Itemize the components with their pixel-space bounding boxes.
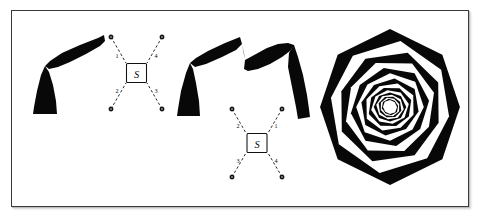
black-double-arm-arc-shape <box>177 37 310 119</box>
spoke-line-4 <box>147 37 162 63</box>
spoke-line-1 <box>111 37 126 63</box>
s-node-label: S <box>134 69 140 80</box>
endpoint-node-hole <box>161 36 163 38</box>
endpoint-node-hole <box>161 108 163 110</box>
spoke-label-3: 3 <box>154 87 157 94</box>
spoke-line-2 <box>232 109 246 133</box>
spoke-label-2: 2 <box>115 87 118 94</box>
panel-left-s-node-diagram: S 1 4 2 3 <box>18 17 174 132</box>
endpoint-node-hole <box>231 176 233 178</box>
nested-rotating-polygon-spiral <box>310 19 470 194</box>
panel-middle-s-node-diagram: S 2 1 3 4 <box>170 17 320 195</box>
black-wedge-arm-shape <box>33 35 105 114</box>
endpoint-node-hole <box>231 108 233 110</box>
panel-right-spiral <box>310 19 470 194</box>
endpoint-node-hole <box>110 36 112 38</box>
spoke-label-2: 2 <box>236 122 239 129</box>
figure-frame: S 1 4 2 3 <box>11 10 469 207</box>
spoke-label-1: 1 <box>115 52 118 59</box>
endpoint-node-hole <box>281 176 283 178</box>
spoke-label-4: 4 <box>154 52 157 59</box>
spoke-line-1 <box>268 109 282 133</box>
spoke-label-3: 3 <box>236 157 239 164</box>
spoke-label-4: 4 <box>274 157 277 164</box>
spoke-label-1: 1 <box>274 122 277 129</box>
endpoint-node-hole <box>281 108 283 110</box>
endpoint-node-hole <box>110 108 112 110</box>
s-node-label: S <box>254 139 260 150</box>
